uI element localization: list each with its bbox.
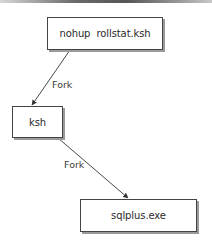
edge-label-fork-2: Fork	[64, 159, 84, 170]
node-sqlplus: sqlplus.exe	[80, 199, 197, 232]
node-nohup-rollstat-label: nohup rollstat.ksh	[59, 28, 150, 39]
node-ksh: ksh	[12, 106, 63, 138]
node-ksh-label: ksh	[29, 117, 46, 128]
node-sqlplus-label: sqlplus.exe	[111, 210, 166, 221]
node-nohup-rollstat: nohup rollstat.ksh	[47, 17, 163, 50]
edge-nohup-to-ksh-arrow	[32, 50, 70, 105]
edge-label-fork-1: Fork	[52, 79, 72, 90]
